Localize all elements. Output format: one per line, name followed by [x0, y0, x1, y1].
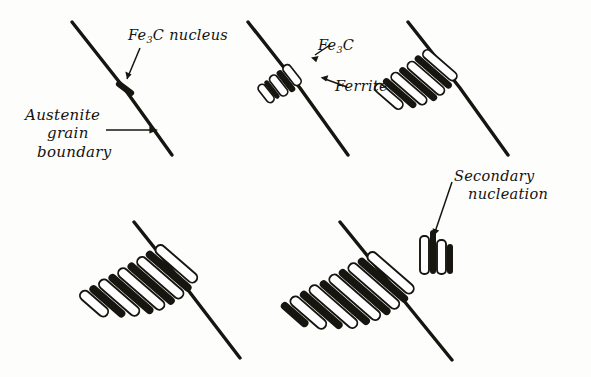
pearlite-colony-4 [78, 225, 201, 349]
label-fe3c: Fe3C [318, 37, 354, 56]
fe3c-arrowhead [311, 56, 319, 62]
ferrite-arrowhead [321, 75, 329, 81]
label-fe3c-nucleus: Fe3C nucleus [128, 27, 228, 46]
label-austenite-grain-boundary: Austenitegrainboundary [25, 106, 112, 161]
pearlite-nucleation-figure: Fe3C nucleus Austenitegrainboundary Fe3C… [0, 0, 591, 377]
panel-4 [78, 222, 240, 358]
label-secondary-line2: nucleation [454, 186, 548, 204]
label-ferrite: Ferrite [335, 78, 388, 96]
secondary-nucleation-lamellae [420, 230, 453, 274]
label-secondary-nucleation: Secondarynucleation [454, 168, 548, 203]
secondary-nucleation-arrow [435, 182, 452, 232]
panel-5 [279, 182, 453, 367]
label-fe3c-pre: Fe [318, 37, 336, 53]
fe3c-nucleus-mark [119, 84, 131, 93]
fe3c-nucleus-arrowhead [125, 72, 131, 79]
pearlite-colony-5 [279, 228, 417, 367]
pearlite-colony-2 [256, 63, 304, 108]
panel-3 [373, 22, 508, 155]
label-austenite-line3: boundary [25, 143, 112, 161]
label-fe3c-nucleus-post: C nucleus [153, 27, 228, 43]
label-secondary-line1: Secondary [454, 168, 534, 184]
label-austenite-line2: grain [25, 124, 112, 142]
label-fe3c-post: C [343, 37, 354, 53]
label-fe3c-nucleus-pre: Fe [128, 27, 146, 43]
label-austenite-line1: Austenite [25, 106, 100, 124]
